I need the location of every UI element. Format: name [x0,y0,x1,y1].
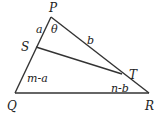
triangle-diagram: P Q R S T a θ b m-a n-b [0,0,161,116]
segment-label-sq: m-a [27,72,48,85]
vertex-label-t: T [129,68,138,82]
segment-label-tr: n-b [111,82,129,95]
vertex-label-r: R [144,99,154,113]
segment-label-pt: b [87,34,94,47]
segment-label-ps: a [36,23,43,36]
vertex-label-p: P [48,1,58,15]
angle-label-theta: θ [51,23,58,36]
vertex-label-q: Q [7,99,17,113]
vertex-label-s: S [21,40,29,54]
segment-st [36,47,122,74]
